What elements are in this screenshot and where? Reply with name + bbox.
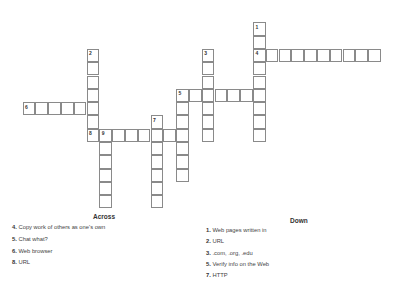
crossword-cell[interactable]: 1 (253, 22, 266, 35)
crossword-cell[interactable] (99, 155, 112, 168)
crossword-cell[interactable] (202, 89, 215, 102)
crossword-cell[interactable] (202, 129, 215, 142)
crossword-cell[interactable] (253, 89, 266, 102)
crossword-cell[interactable] (99, 169, 112, 182)
clue-number: 7 (153, 117, 156, 123)
crossword-grid: 142835679 (0, 0, 404, 215)
crossword-cell[interactable] (163, 129, 176, 142)
crossword-cell[interactable] (112, 129, 125, 142)
crossword-cell[interactable] (253, 115, 266, 128)
crossword-cell[interactable] (99, 142, 112, 155)
crossword-cell[interactable] (74, 102, 87, 115)
crossword-cell[interactable] (87, 76, 100, 89)
crossword-cell[interactable] (202, 102, 215, 115)
clue-number: 2 (89, 50, 92, 56)
crossword-cell[interactable] (317, 49, 330, 62)
across-clue-8: 8. URL (12, 259, 30, 265)
crossword-cell[interactable]: 6 (23, 102, 36, 115)
crossword-cell[interactable] (253, 129, 266, 142)
crossword-cell[interactable]: 7 (151, 115, 164, 128)
crossword-cell[interactable] (151, 155, 164, 168)
crossword-cell[interactable]: 5 (176, 89, 189, 102)
crossword-cell[interactable]: 9 (99, 129, 112, 142)
crossword-cell[interactable] (138, 129, 151, 142)
crossword-cell[interactable] (240, 89, 253, 102)
crossword-cell[interactable] (87, 102, 100, 115)
crossword-cell[interactable] (176, 102, 189, 115)
crossword-cell[interactable] (35, 102, 48, 115)
crossword-cell[interactable] (176, 115, 189, 128)
crossword-cell[interactable] (99, 195, 112, 208)
crossword-cell[interactable] (151, 195, 164, 208)
crossword-cell[interactable] (151, 129, 164, 142)
clue-number: 4 (255, 50, 258, 56)
down-title: Down (290, 217, 308, 224)
crossword-cell[interactable] (330, 49, 343, 62)
clue-number: 5 (179, 90, 182, 96)
crossword-cell[interactable] (61, 102, 74, 115)
crossword-cell[interactable] (151, 142, 164, 155)
crossword-cell[interactable] (176, 169, 189, 182)
crossword-cell[interactable] (151, 182, 164, 195)
crossword-cell[interactable] (176, 129, 189, 142)
crossword-cell[interactable] (99, 182, 112, 195)
crossword-cell[interactable] (176, 155, 189, 168)
down-clue-3: 3. .com, .org, .edu (206, 250, 253, 256)
across-clue-5: 5. Chat what? (12, 236, 48, 242)
crossword-cell[interactable] (87, 115, 100, 128)
crossword-cell[interactable]: 8 (87, 129, 100, 142)
clue-number: 8 (89, 130, 92, 136)
crossword-cell[interactable] (253, 36, 266, 49)
clue-number: 3 (204, 50, 207, 56)
crossword-cell[interactable] (253, 102, 266, 115)
crossword-cell[interactable] (151, 169, 164, 182)
down-clue-5: 5. Verify info on the Web (206, 261, 269, 267)
crossword-cell[interactable] (227, 89, 240, 102)
down-clue-1: 1. Web pages written in (206, 227, 267, 233)
crossword-cell[interactable] (368, 49, 381, 62)
down-clue-7: 7. HTTP (206, 272, 228, 278)
crossword-cell[interactable]: 3 (202, 49, 215, 62)
crossword-cell[interactable] (253, 76, 266, 89)
crossword-cell[interactable]: 2 (87, 49, 100, 62)
crossword-cell[interactable] (304, 49, 317, 62)
across-clue-4: 4. Copy work of others as one's own (12, 224, 105, 230)
crossword-cell[interactable] (176, 142, 189, 155)
clue-number: 1 (255, 24, 258, 30)
crossword-cell[interactable]: 4 (253, 49, 266, 62)
crossword-cell[interactable] (355, 49, 368, 62)
down-clue-2: 2. URL (206, 238, 224, 244)
crossword-cell[interactable] (48, 102, 61, 115)
crossword-cell[interactable] (202, 115, 215, 128)
clue-number: 6 (25, 104, 28, 110)
crossword-cell[interactable] (291, 49, 304, 62)
crossword-cell[interactable] (87, 89, 100, 102)
crossword-cell[interactable] (266, 49, 279, 62)
crossword-cell[interactable] (87, 62, 100, 75)
crossword-cell[interactable] (279, 49, 292, 62)
crossword-cell[interactable] (189, 89, 202, 102)
crossword-cell[interactable] (343, 49, 356, 62)
clue-number: 9 (102, 130, 105, 136)
crossword-cell[interactable] (215, 89, 228, 102)
crossword-cell[interactable] (202, 76, 215, 89)
across-clue-6: 6. Web browser (12, 248, 53, 254)
crossword-cell[interactable] (253, 62, 266, 75)
across-title: Across (93, 213, 115, 220)
crossword-cell[interactable] (202, 62, 215, 75)
crossword-cell[interactable] (125, 129, 138, 142)
